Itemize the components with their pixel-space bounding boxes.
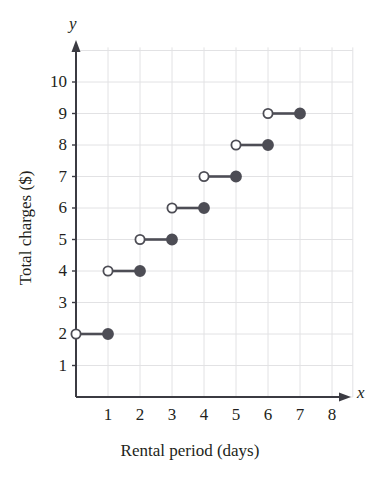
endpoint-open <box>263 109 272 118</box>
step-segment <box>263 109 305 119</box>
x-tick-label: 2 <box>124 406 156 423</box>
endpoint-closed <box>231 172 241 182</box>
endpoint-open <box>231 140 240 149</box>
endpoint-open <box>135 235 144 244</box>
y-tick-label: 10 <box>0 73 67 90</box>
x-tick-label: 3 <box>156 406 188 423</box>
endpoint-closed <box>135 266 145 276</box>
step-segment <box>199 172 241 182</box>
y-axis-variable-label: y <box>69 14 77 34</box>
endpoint-open <box>199 172 208 181</box>
endpoint-closed <box>199 203 209 213</box>
endpoint-closed <box>295 109 305 119</box>
x-tick-label: 8 <box>316 406 348 423</box>
x-tick-label: 1 <box>92 406 124 423</box>
axis-lines <box>72 40 352 402</box>
step-segment <box>167 203 209 213</box>
endpoint-closed <box>167 235 177 245</box>
x-tick-label: 4 <box>188 406 220 423</box>
y-tick-label: 9 <box>0 105 67 122</box>
step-segment <box>71 329 113 339</box>
step-segment <box>135 235 177 245</box>
figure-container: 12345678910 12345678 y x Total charges (… <box>0 0 378 484</box>
endpoint-closed <box>103 329 113 339</box>
step-segment <box>231 140 273 150</box>
endpoint-open <box>71 329 80 338</box>
x-tick-label: 7 <box>284 406 316 423</box>
x-axis-title: Rental period (days) <box>40 441 340 461</box>
step-segment <box>103 266 145 276</box>
endpoint-open <box>103 266 112 275</box>
x-axis-variable-label: x <box>357 383 365 403</box>
step-segments <box>71 109 305 340</box>
x-tick-label: 6 <box>252 406 284 423</box>
y-axis-title: Total charges ($) <box>16 128 36 328</box>
endpoint-open <box>167 203 176 212</box>
x-tick-label: 5 <box>220 406 252 423</box>
gridlines <box>76 47 353 397</box>
y-tick-label: 1 <box>0 357 67 374</box>
endpoint-closed <box>263 140 273 150</box>
